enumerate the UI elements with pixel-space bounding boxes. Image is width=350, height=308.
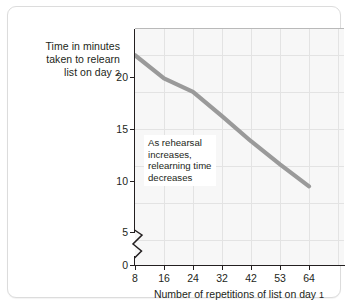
y-axis-break-zigzag-icon <box>130 229 146 259</box>
y-tick-label-0: 0 <box>106 259 128 271</box>
x-axis-title-day-number: 1 <box>319 290 324 300</box>
y-tick-label-20: 20 <box>106 71 128 83</box>
annotation-line-3: relearning time <box>148 160 211 172</box>
x-tick-label-53: 53 <box>265 272 295 284</box>
x-tick-label-64: 64 <box>294 272 324 284</box>
x-tick-label-16: 16 <box>149 272 179 284</box>
y-axis-line <box>134 29 135 232</box>
y-axis-title-line-1: Time in minutes <box>16 40 120 53</box>
x-tick-mark-24 <box>193 266 194 270</box>
x-tick-label-24: 24 <box>178 272 208 284</box>
y-tick-mark-20 <box>130 77 135 78</box>
x-tick-mark-32 <box>222 266 223 270</box>
x-tick-mark-64 <box>309 266 310 270</box>
x-tick-mark-53 <box>280 266 281 270</box>
x-axis-title: Number of repetitions of list on day 1 <box>134 288 344 300</box>
plot-top-border <box>135 28 344 29</box>
annotation-line-2: increases, <box>148 149 211 161</box>
x-tick-label-42: 42 <box>236 272 266 284</box>
x-tick-mark-8 <box>135 266 136 270</box>
y-tick-label-15: 15 <box>106 123 128 135</box>
chart-annotation: As rehearsal increases, relearning time … <box>144 135 216 186</box>
annotation-line-4: decreases <box>148 172 211 184</box>
y-axis-title-line-3: list on day 2 <box>16 66 120 80</box>
y-tick-mark-10 <box>130 181 135 182</box>
x-tick-mark-42 <box>251 266 252 270</box>
y-axis-title-line-2: taken to relearn <box>16 53 120 66</box>
y-axis-title: Time in minutes taken to relearn list on… <box>16 40 120 81</box>
y-tick-mark-5 <box>130 232 135 233</box>
x-axis-title-text: Number of repetitions of list on day <box>154 288 319 300</box>
y-tick-label-10: 10 <box>106 175 128 187</box>
x-axis-line <box>134 265 345 266</box>
y-tick-mark-15 <box>130 129 135 130</box>
x-tick-label-8: 8 <box>120 272 150 284</box>
annotation-line-1: As rehearsal <box>148 137 211 149</box>
x-tick-mark-16 <box>164 266 165 270</box>
x-tick-label-32: 32 <box>207 272 237 284</box>
y-tick-label-5: 5 <box>106 226 128 238</box>
figure-card: Time in minutes taken to relearn list on… <box>7 6 341 298</box>
